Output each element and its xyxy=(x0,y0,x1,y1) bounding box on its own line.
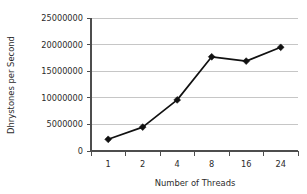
chart-container: 25000000 20000000 15000000 10000000 5000… xyxy=(0,0,307,194)
x-tick-label-4: 4 xyxy=(175,159,180,169)
x-tick-label-24: 24 xyxy=(275,159,285,169)
y-tick-label-15000000: 15000000 xyxy=(41,66,83,76)
y-tick-label-25000000: 25000000 xyxy=(41,13,83,23)
x-tick-label-16: 16 xyxy=(241,159,251,169)
x-tick-label-8: 8 xyxy=(209,159,214,169)
y-tick-label-5000000: 5000000 xyxy=(47,119,83,129)
y-tick-label-20000000: 20000000 xyxy=(41,40,83,50)
y-tick-label-10000000: 10000000 xyxy=(41,93,83,103)
x-tick-label-2: 2 xyxy=(140,159,145,169)
y-axis-title: Dhrystones per Second xyxy=(6,36,16,134)
line-chart: 25000000 20000000 15000000 10000000 5000… xyxy=(0,0,307,194)
y-tick-label-0: 0 xyxy=(78,146,83,156)
x-tick-label-1: 1 xyxy=(106,159,111,169)
x-axis-title: Number of Threads xyxy=(155,178,236,188)
